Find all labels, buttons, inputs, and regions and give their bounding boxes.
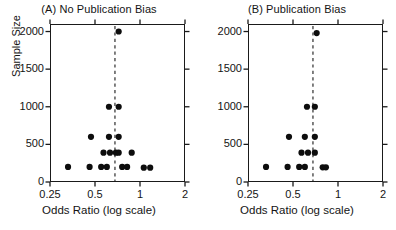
data-point [116,134,122,140]
x-tick-label: 1 [318,188,358,200]
panel-b: (B) Publication Bias Odds Ratio (log sca… [198,0,396,230]
y-tick-label: 1500 [202,62,242,74]
y-tick-label: 0 [4,175,44,187]
data-point [88,134,94,140]
y-tick-label: 2000 [4,25,44,37]
data-point [116,28,122,34]
data-point [65,164,71,170]
data-point [302,134,308,140]
data-point [263,164,269,170]
data-point [106,104,112,110]
data-point [286,134,292,140]
data-point [129,150,135,156]
data-point [107,150,113,156]
data-point [304,104,310,110]
y-tick-label: 500 [202,137,242,149]
data-point [296,164,302,170]
x-tick-label: 0.25 [228,188,268,200]
funnel-plot-figure: (A) No Publication Bias Sample Size Odds… [0,0,396,230]
data-point [98,164,104,170]
x-tick-label: 0.25 [30,188,70,200]
data-point [314,30,320,36]
data-point [86,164,92,170]
data-point [323,164,329,170]
x-tick-label: 0.5 [75,188,115,200]
data-point [147,165,153,171]
y-tick-label: 2000 [202,25,242,37]
data-point [106,134,112,140]
data-point [312,150,318,156]
y-tick-label: 0 [202,175,242,187]
panel-a-x-axis-label: Odds Ratio (log scale) [0,204,198,216]
data-point [104,164,110,170]
data-point [305,150,311,156]
data-point [284,164,290,170]
x-tick-label: 1 [120,188,160,200]
panel-b-x-axis-label: Odds Ratio (log scale) [198,204,396,216]
panel-a: (A) No Publication Bias Sample Size Odds… [0,0,198,230]
x-tick-label: 2 [363,188,396,200]
y-tick-label: 1000 [4,100,44,112]
y-tick-label: 1000 [202,100,242,112]
data-point [100,150,106,156]
data-point [116,104,122,110]
data-point [312,134,318,140]
x-tick-label: 0.5 [273,188,313,200]
data-point [298,150,304,156]
data-point [312,104,318,110]
data-point [302,164,308,170]
data-point [124,164,130,170]
y-tick-label: 1500 [4,62,44,74]
data-point [116,150,122,156]
y-tick-label: 500 [4,137,44,149]
data-point [141,165,147,171]
